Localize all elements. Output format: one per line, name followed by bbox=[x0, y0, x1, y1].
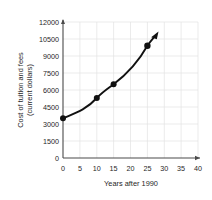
y-tick-label-7500: 7500 bbox=[43, 69, 59, 78]
y-axis-title-line-1: Cost of tuition and fees bbox=[16, 52, 25, 128]
y-tick-label-9000: 9000 bbox=[43, 52, 59, 61]
x-tick-label-15: 15 bbox=[110, 164, 118, 173]
x-tick-label-30: 30 bbox=[160, 164, 168, 173]
y-tick-label-4500: 4500 bbox=[43, 103, 59, 112]
data-point-1 bbox=[94, 95, 100, 101]
data-point-2 bbox=[111, 81, 117, 87]
y-tick-label-6000: 6000 bbox=[43, 86, 59, 95]
y-axis-title-line-2: (current dollars) bbox=[25, 64, 34, 116]
y-tick-label-12000: 12000 bbox=[39, 18, 59, 27]
x-tick-label-10: 10 bbox=[93, 164, 101, 173]
y-tick-label-3000: 3000 bbox=[43, 120, 59, 129]
tuition-cost-line-chart: 12000 10500 9000 7500 6000 4500 3000 150… bbox=[0, 0, 212, 200]
data-point-0 bbox=[60, 115, 66, 121]
x-axis-title: Years after 1990 bbox=[104, 179, 158, 188]
data-point-3 bbox=[144, 43, 150, 49]
data-point-markers bbox=[60, 43, 151, 122]
x-tick-label-40: 40 bbox=[194, 164, 202, 173]
x-tick-label-35: 35 bbox=[177, 164, 185, 173]
x-axis-tick-labels: 0 5 10 15 20 25 30 35 40 bbox=[61, 164, 202, 173]
tuition-trend-curve bbox=[63, 36, 156, 119]
chart-container: 12000 10500 9000 7500 6000 4500 3000 150… bbox=[0, 0, 212, 200]
x-tick-label-20: 20 bbox=[127, 164, 135, 173]
y-tick-label-0: 0 bbox=[55, 154, 59, 163]
y-axis-arrowhead bbox=[61, 19, 65, 24]
x-axis-arrowhead bbox=[195, 156, 200, 160]
y-tick-label-1500: 1500 bbox=[43, 137, 59, 146]
y-axis-tick-labels: 12000 10500 9000 7500 6000 4500 3000 150… bbox=[39, 18, 59, 163]
y-tick-label-10500: 10500 bbox=[39, 35, 59, 44]
x-tick-label-5: 5 bbox=[78, 164, 82, 173]
x-tick-label-25: 25 bbox=[143, 164, 151, 173]
x-tick-label-0: 0 bbox=[61, 164, 65, 173]
